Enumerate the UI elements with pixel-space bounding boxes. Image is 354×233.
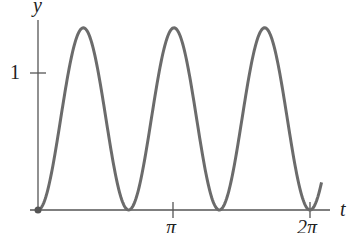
y-tick-label: 1 [10, 61, 20, 84]
plot-area [0, 0, 354, 233]
origin-point [35, 207, 42, 214]
x-tick-label-2pi: 2π [297, 216, 317, 233]
series-curve [38, 28, 322, 210]
x-tick-label-pi: π [166, 216, 176, 233]
y-axis-label: y [33, 0, 42, 17]
x-axis-label: t [340, 198, 346, 221]
chart: y 1 π 2π t [0, 0, 354, 233]
